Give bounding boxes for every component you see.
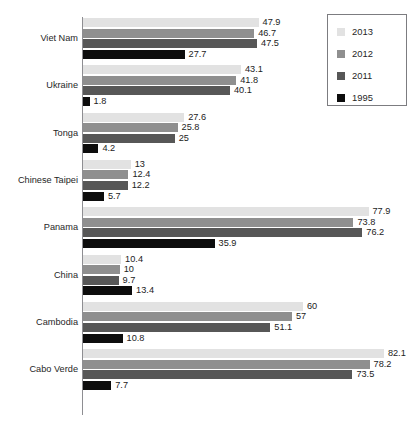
bar-2013 (83, 113, 184, 122)
bar-group: Chinese Taipei1312.412.25.7 (0, 160, 415, 202)
bar-2011 (83, 39, 257, 48)
bar-row: 25 (83, 134, 415, 143)
bar-row: 73.5 (83, 370, 415, 379)
bar-1995 (83, 381, 111, 390)
bar-value-label: 35.9 (219, 238, 237, 248)
bar-row: 73.8 (83, 218, 415, 227)
legend-item-2012[interactable]: 2012 (337, 49, 373, 59)
bar-value-label: 76.2 (366, 227, 384, 237)
legend-item-2011[interactable]: 2011 (337, 71, 372, 81)
legend-item-2013[interactable]: 2013 (337, 27, 373, 37)
bar-value-label: 27.7 (189, 49, 207, 59)
bar-value-label: 7.7 (115, 380, 128, 390)
bar-2011 (83, 276, 119, 285)
bar-row: 82.1 (83, 349, 415, 358)
bar-2013 (83, 65, 241, 74)
bar-value-label: 41.8 (240, 75, 258, 85)
bar-1995 (83, 192, 104, 201)
bar-2011 (83, 323, 270, 332)
bar-value-label: 25.8 (182, 122, 200, 132)
bar-row: 27.6 (83, 113, 415, 122)
bar-2013 (83, 207, 369, 216)
category-label: Cabo Verde (0, 364, 78, 374)
legend-swatch-icon (337, 94, 345, 102)
bar-2012 (83, 360, 370, 369)
category-label: Panama (0, 222, 78, 232)
chart-title (56, 0, 236, 2)
bar-value-label: 73.8 (357, 217, 375, 227)
bar-value-label: 10 (124, 264, 134, 274)
bar-2012 (83, 218, 353, 227)
bar-value-label: 47.5 (261, 38, 279, 48)
bar-value-label: 77.9 (373, 206, 391, 216)
bar-value-label: 57 (296, 311, 306, 321)
bar-value-label: 27.6 (188, 112, 206, 122)
bar-row: 76.2 (83, 228, 415, 237)
bar-row: 51.1 (83, 323, 415, 332)
bar-row: 4.2 (83, 144, 415, 153)
bar-row: 77.9 (83, 207, 415, 216)
legend-label: 2012 (352, 49, 373, 59)
bar-2013 (83, 160, 131, 169)
bar-value-label: 12.2 (132, 180, 150, 190)
bar-2011 (83, 370, 352, 379)
legend-swatch-icon (337, 72, 345, 80)
bar-2013 (83, 18, 259, 27)
bar-value-label: 40.1 (234, 85, 252, 95)
bar-value-label: 73.5 (356, 369, 374, 379)
category-label: Ukraine (0, 80, 78, 90)
bar-2012 (83, 29, 254, 38)
bar-value-label: 51.1 (274, 322, 292, 332)
bar-value-label: 5.7 (108, 191, 121, 201)
bar-value-label: 13.4 (136, 285, 154, 295)
bar-2012 (83, 312, 292, 321)
bar-2011 (83, 228, 362, 237)
bar-row: 5.7 (83, 192, 415, 201)
bar-group: Cambodia605751.110.8 (0, 302, 415, 344)
bar-row: 10 (83, 265, 415, 274)
bar-value-label: 4.2 (102, 143, 115, 153)
bar-group: Panama77.973.876.235.9 (0, 207, 415, 249)
bar-1995 (83, 286, 132, 295)
bar-value-label: 43.1 (245, 64, 263, 74)
bar-value-label: 10.4 (125, 254, 143, 264)
category-label: Tonga (0, 128, 78, 138)
bar-row: 60 (83, 302, 415, 311)
legend-label: 1995 (352, 93, 373, 103)
bar-2011 (83, 134, 175, 143)
bar-2012 (83, 76, 236, 85)
legend-swatch-icon (337, 50, 345, 58)
bar-2012 (83, 170, 128, 179)
bar-row: 10.8 (83, 334, 415, 343)
legend-item-1995[interactable]: 1995 (337, 93, 373, 103)
legend-swatch-icon (337, 28, 345, 36)
bar-value-label: 13 (135, 159, 145, 169)
bar-value-label: 9.7 (123, 275, 136, 285)
bar-1995 (83, 239, 215, 248)
bar-row: 25.8 (83, 123, 415, 132)
bar-value-label: 47.9 (263, 17, 281, 27)
category-label: Viet Nam (0, 33, 78, 43)
category-label: Cambodia (0, 317, 78, 327)
bar-2011 (83, 86, 230, 95)
bar-value-label: 1.8 (94, 96, 107, 106)
bar-value-label: 12.4 (132, 169, 150, 179)
legend-label: 2013 (352, 27, 373, 37)
bar-group: China10.4109.713.4 (0, 255, 415, 297)
bar-2011 (83, 181, 128, 190)
bar-value-label: 25 (179, 133, 189, 143)
bar-1995 (83, 334, 123, 343)
bar-value-label: 60 (307, 301, 317, 311)
bar-1995 (83, 97, 90, 106)
bar-row: 12.2 (83, 181, 415, 190)
bar-2013 (83, 349, 384, 358)
bar-1995 (83, 50, 185, 59)
bar-chart: Viet Nam47.946.747.527.7Ukraine43.141.84… (0, 0, 415, 428)
bar-row: 13 (83, 160, 415, 169)
bar-row: 10.4 (83, 255, 415, 264)
bar-group: Cabo Verde82.178.273.57.7 (0, 349, 415, 391)
legend: 2013201220111995 (327, 14, 407, 106)
bar-2012 (83, 123, 178, 132)
bar-group: Tonga27.625.8254.2 (0, 113, 415, 155)
category-label: China (0, 270, 78, 280)
